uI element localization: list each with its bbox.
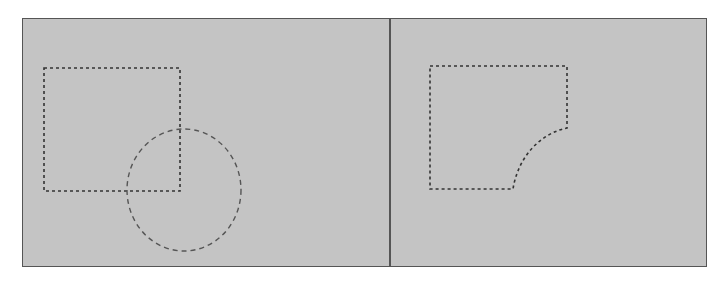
subtracted-selection — [430, 66, 567, 189]
after-canvas — [391, 19, 708, 268]
ellipse-selection — [127, 129, 241, 251]
panel-before — [22, 18, 390, 267]
before-canvas — [23, 19, 391, 268]
panel-after — [390, 18, 707, 267]
rectangle-selection — [44, 68, 180, 191]
